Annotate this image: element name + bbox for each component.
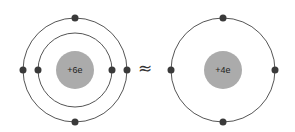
electron <box>20 67 27 74</box>
electron <box>72 119 79 126</box>
electron <box>109 67 116 74</box>
electron <box>220 15 227 22</box>
electron <box>168 67 175 74</box>
right-atom: +4e <box>168 15 279 126</box>
electron <box>272 67 279 74</box>
electron <box>72 15 79 22</box>
approx-symbol: ≈ <box>138 58 152 78</box>
electron <box>35 67 42 74</box>
electron <box>124 67 131 74</box>
left-atom: +6e <box>20 15 131 126</box>
nucleus-label: +4e <box>215 65 230 75</box>
nucleus-label: +6e <box>67 65 82 75</box>
electron <box>220 119 227 126</box>
